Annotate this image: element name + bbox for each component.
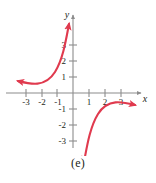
curve-branch-lower-right	[84, 102, 135, 156]
figure-caption: (e)	[0, 156, 156, 171]
y-tick-label-neg2: -2	[59, 120, 67, 130]
x-tick-label-pos1: 1	[87, 97, 92, 107]
y-tick-label-pos1: 1	[62, 72, 67, 82]
y-tick-label-neg3: -3	[59, 136, 67, 146]
plot-area: -3 -2 -1 1 2 3 3 2 1 -1 -2 -3 x y	[0, 0, 156, 156]
y-tick-label-neg1: -1	[59, 104, 67, 114]
x-tick-label-neg3: -3	[22, 97, 30, 107]
x-axis-label: x	[142, 93, 148, 104]
x-tick-label-neg2: -2	[38, 97, 46, 107]
coordinate-plane-svg: -3 -2 -1 1 2 3 3 2 1 -1 -2 -3 x y	[0, 0, 156, 156]
y-axis-label: y	[64, 9, 70, 20]
figure-container: -3 -2 -1 1 2 3 3 2 1 -1 -2 -3 x y (e)	[0, 0, 156, 183]
